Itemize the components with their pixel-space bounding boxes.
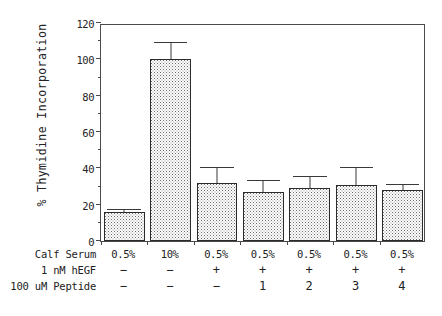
error-bar-cap: [154, 42, 187, 43]
condition-cell: +: [286, 262, 332, 278]
y-axis-tick-label: 20: [58, 200, 94, 212]
error-bar-cap: [200, 167, 233, 168]
condition-cell: +: [193, 262, 239, 278]
x-axis-tick: [147, 241, 148, 245]
condition-cell: +: [379, 262, 425, 278]
error-bar-whisker: [309, 177, 310, 188]
condition-cell: +: [239, 262, 285, 278]
bar: [150, 59, 191, 241]
bar: [197, 183, 238, 241]
condition-cell: 4: [379, 278, 425, 294]
bar-group: [333, 25, 379, 241]
x-axis-tick: [287, 241, 288, 245]
bar-group: [380, 25, 426, 241]
condition-row-label: 100 uM Peptide: [0, 278, 96, 294]
condition-cell: 0.5%: [332, 246, 378, 262]
bar-group: [240, 25, 286, 241]
y-axis-tick-label: 40: [58, 163, 94, 175]
error-bar-cap: [107, 209, 140, 210]
x-axis-tick: [333, 241, 334, 245]
condition-row: 100 uM Peptide−−−1234: [0, 278, 442, 294]
condition-cell: 3: [332, 278, 378, 294]
condition-cell: −: [193, 278, 239, 294]
condition-cell: 0.5%: [193, 246, 239, 262]
y-axis-tick-label: 80: [58, 91, 94, 103]
y-axis-tick-label: 60: [58, 127, 94, 139]
condition-cell: −: [146, 278, 192, 294]
plot-area: [100, 24, 425, 242]
x-axis-tick: [380, 241, 381, 245]
bar-group: [101, 25, 147, 241]
bar: [336, 185, 377, 241]
x-axis-tick: [194, 241, 195, 245]
condition-row-label: Calf Serum: [0, 246, 96, 262]
condition-row-label: 1 nM hEGF: [0, 262, 96, 278]
error-bar-cap: [247, 180, 280, 181]
error-bar-whisker: [124, 210, 125, 212]
condition-cell: −: [100, 278, 146, 294]
condition-cell: 2: [286, 278, 332, 294]
y-axis-major-tick: [96, 22, 101, 23]
error-bar-whisker: [402, 185, 403, 190]
bar: [382, 190, 423, 241]
condition-cell: 0.5%: [379, 246, 425, 262]
condition-row: 1 nM hEGF−−+++++: [0, 262, 442, 278]
x-axis-tick: [240, 241, 241, 245]
condition-cell: 10%: [146, 246, 192, 262]
bar: [104, 212, 145, 241]
condition-cell: −: [146, 262, 192, 278]
y-axis-tick-label: 100: [58, 54, 94, 66]
error-bar-cap: [386, 184, 419, 185]
error-bar-whisker: [356, 168, 357, 184]
x-axis-tick: [101, 241, 102, 245]
bar: [243, 192, 284, 241]
bars-layer: [101, 25, 424, 241]
bar-group: [287, 25, 333, 241]
error-bar-whisker: [217, 168, 218, 183]
error-bar-whisker: [170, 43, 171, 59]
bar-group: [194, 25, 240, 241]
condition-cell: 1: [239, 278, 285, 294]
bar-group: [147, 25, 193, 241]
bar: [289, 188, 330, 241]
condition-table: Calf Serum0.5%10%0.5%0.5%0.5%0.5%0.5%1 n…: [0, 246, 442, 294]
condition-cell: −: [100, 262, 146, 278]
condition-cell: +: [332, 262, 378, 278]
condition-cell: 0.5%: [239, 246, 285, 262]
error-bar-cap: [293, 176, 326, 177]
condition-cell: 0.5%: [100, 246, 146, 262]
error-bar-whisker: [263, 181, 264, 192]
y-axis-tick-label: 120: [58, 18, 94, 30]
condition-cell: 0.5%: [286, 246, 332, 262]
condition-row: Calf Serum0.5%10%0.5%0.5%0.5%0.5%0.5%: [0, 246, 442, 262]
error-bar-cap: [340, 167, 373, 168]
